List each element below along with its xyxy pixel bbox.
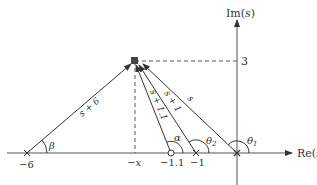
angle-label-theta1: θ1: [247, 135, 258, 148]
angle-label-alpha: α: [174, 132, 181, 143]
vector-label-s-plus-6: s + 6: [77, 96, 102, 119]
vector-label-s: s: [186, 93, 196, 104]
real-axis-label: Re(s): [297, 147, 317, 160]
label-minus-6: −6: [19, 159, 34, 170]
s-plane-diagram: Im(s) Re(s) 3 −6 −x −1.1 −1 β α θ2 θ1 s …: [0, 0, 317, 185]
test-point-marker: [131, 57, 138, 64]
imag-tick-label: 3: [241, 55, 248, 68]
label-minus-1-1: −1.1: [160, 157, 184, 168]
label-minus-x: −x: [127, 157, 141, 168]
angle-label-beta: β: [48, 140, 55, 151]
zero-marker-minus-1-1: [168, 150, 174, 156]
angle-arc-beta: [42, 140, 47, 153]
imag-axis-label: Im(s): [226, 7, 255, 20]
vector-s-plus-1: [139, 65, 196, 153]
label-minus-1: −1: [190, 157, 205, 168]
